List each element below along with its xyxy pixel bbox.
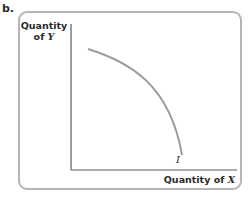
plot-area — [0, 0, 252, 200]
x-axis-label: Quantity of X — [164, 174, 235, 185]
indifference-curve — [88, 49, 182, 155]
curve-label: I — [176, 154, 180, 165]
x-axis-variable: X — [228, 174, 235, 185]
x-axis-label-prefix: Quantity of — [164, 174, 228, 185]
